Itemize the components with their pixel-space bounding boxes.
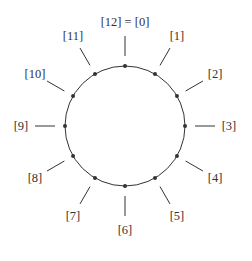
label-2: [2] [208,67,223,81]
point-2 [175,94,179,98]
label-7: [7] [66,209,81,223]
point-9 [63,124,67,128]
label-5: [5] [170,209,185,223]
label-0: [12] = [0] [101,15,150,29]
point-6 [123,184,127,188]
label-10: [10] [25,67,46,81]
tick-7 [80,187,90,204]
label-3: [3] [222,119,237,133]
label-6: [6] [118,223,133,237]
tick-5 [160,187,170,204]
clock-diagram: [12] = [0] [1] [2] [3] [4] [5] [6] [7] [… [0,0,252,261]
tick-11 [80,48,90,65]
point-7 [93,176,97,180]
tick-10 [47,81,64,91]
label-11: [11] [63,29,83,43]
label-8: [8] [28,171,43,185]
tick-2 [186,81,203,91]
tick-8 [47,161,64,171]
label-9: [9] [14,119,29,133]
point-5 [153,176,157,180]
point-0 [123,64,127,68]
point-10 [71,94,75,98]
point-3 [183,124,187,128]
point-11 [93,72,97,76]
tick-marks [35,36,215,216]
label-4: [4] [208,171,223,185]
point-1 [153,72,157,76]
residue-circle [65,66,185,186]
tick-4 [186,161,203,171]
point-4 [175,154,179,158]
label-1: [1] [170,29,185,43]
residue-points [63,64,187,188]
point-8 [71,154,75,158]
tick-1 [160,48,170,65]
